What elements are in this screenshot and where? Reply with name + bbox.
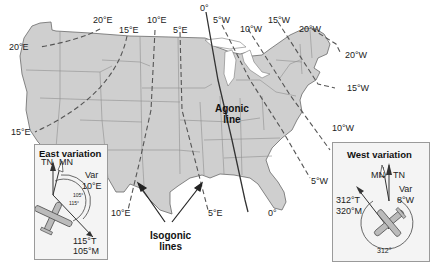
east-variation-inset: East variation TN MN Var 10°E 105° <box>34 144 108 260</box>
isogonic-label-5w-top: 5°W <box>213 16 230 25</box>
east-course-true: 115°T <box>73 237 96 246</box>
isogonic-lines-text-2: lines <box>150 241 191 252</box>
west-course-magnetic: 320°M <box>336 207 362 216</box>
agonic-line-annotation: Agonic line <box>215 103 249 125</box>
isogonic-label-5e-bottom: 5°E <box>208 209 223 218</box>
west-tn-label: TN <box>393 171 405 180</box>
isogonic-label-20w-top: 20°W <box>299 25 321 34</box>
east-tn-label: TN <box>41 158 53 167</box>
isogonic-lines-annotation: Isogonic lines <box>150 230 191 252</box>
east-angle-magnetic: 105° <box>73 193 83 198</box>
isogonic-label-15e-top: 15°E <box>119 26 139 35</box>
isogonic-label-15w-right: 15°W <box>347 84 369 93</box>
agonic-line-text-2: line <box>215 114 249 125</box>
isogonic-label-15e-left: 15°E <box>11 128 31 137</box>
west-variation-inset: West variation MN TN Var 8°W 312°T 320°M… <box>332 142 430 262</box>
east-angle-true: 115° <box>69 201 79 206</box>
isogonic-label-20e-left: 20°E <box>9 43 29 52</box>
isogonic-map-figure: 20°E 15°E 10°E 5°E 0° 5°W 10°W 15°W 20°W… <box>0 0 434 270</box>
east-course-magnetic: 105°M <box>73 247 99 256</box>
west-var-label: Var <box>399 185 412 194</box>
isogonic-label-10e-bottom: 10°E <box>111 209 131 218</box>
true-north-arrow-icon <box>386 163 392 175</box>
west-mn-label: MN <box>371 171 385 180</box>
isogonic-label-10e-top: 10°E <box>147 16 167 25</box>
isogonic-label-5w-right: 5°W <box>311 177 328 186</box>
airplane-icon <box>365 199 413 247</box>
east-var-label: Var <box>85 171 98 180</box>
isogonic-label-5e-top: 5°E <box>173 26 188 35</box>
isogonic-lines-text-1: Isogonic <box>150 230 191 241</box>
agonic-line-text-1: Agonic <box>215 103 249 114</box>
isogonic-label-20w-right: 20°W <box>345 51 367 60</box>
west-course-true: 312°T <box>336 196 360 205</box>
isogonic-label-10w-top: 10°W <box>240 25 262 34</box>
isogonic-label-0-top: 0° <box>200 4 209 13</box>
west-angle-true: 312° <box>377 247 391 254</box>
isogonic-label-20e-top: 20°E <box>93 16 113 25</box>
west-var-value: 8°W <box>397 196 414 205</box>
isogonic-label-10w-right: 10°W <box>332 124 354 133</box>
east-mn-label: MN <box>59 158 73 167</box>
east-var-value: 10°E <box>82 182 102 191</box>
isogonic-label-0-bottom: 0° <box>268 209 277 218</box>
isogonic-label-15w-top: 15°W <box>268 16 290 25</box>
